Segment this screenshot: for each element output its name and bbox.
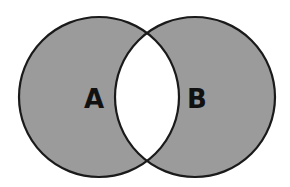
venn-diagram: A B [0, 0, 290, 187]
set-a-label: A [84, 84, 104, 114]
set-b-label: B [187, 84, 207, 114]
